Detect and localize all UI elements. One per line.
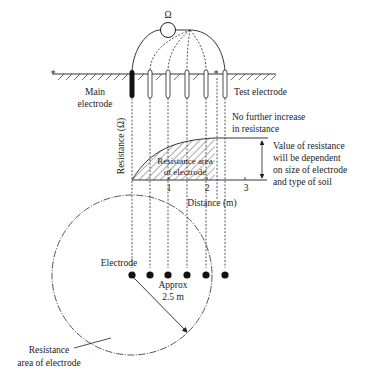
value-note: and type of soil	[273, 177, 332, 187]
ohmmeter: Ω	[161, 10, 176, 38]
asterisk-icon: *	[214, 69, 219, 79]
ohm-symbol: Ω	[164, 10, 171, 20]
probe-electrode	[185, 70, 189, 98]
probe-electrode	[148, 70, 152, 98]
x-axis-label: Distance (m)	[187, 198, 236, 209]
main-electrode-label: Main	[85, 87, 105, 97]
electrode-dot	[146, 271, 153, 278]
earth-resistance-diagram: Ω * *	[0, 0, 368, 380]
plan-area-label: area of electrode	[17, 358, 80, 368]
test-electrode-label: Test electrode	[234, 87, 287, 97]
y-axis-label: Resistance (Ω)	[116, 118, 127, 174]
electrode-dot	[183, 271, 190, 278]
radius-label: 2.5 m	[162, 292, 184, 302]
x-tick-1: 1	[167, 183, 172, 193]
radius-label: Approx	[158, 280, 187, 290]
probe-leads	[150, 30, 206, 70]
resistance-area-label: Resistance area	[157, 156, 213, 166]
value-note: on size of electrode	[273, 165, 347, 175]
plan-electrodes	[128, 271, 228, 278]
electrode-dot	[221, 271, 228, 278]
value-note: will be dependent	[273, 153, 341, 163]
test-electrode	[223, 70, 227, 98]
main-electrode-label: electrode	[78, 99, 113, 109]
electrode-dot	[164, 271, 171, 278]
lead-wire	[132, 30, 225, 72]
resistance-area-label: of electrode	[164, 167, 207, 177]
probe-electrode	[204, 70, 208, 98]
value-note: Value of resistance	[273, 141, 345, 151]
ground-hatch-icon	[52, 74, 276, 80]
x-tick-3: 3	[244, 183, 249, 193]
plan-area-label: Resistance	[29, 345, 70, 355]
electrode-label: Electrode	[101, 258, 137, 268]
electrode-dot	[202, 271, 209, 278]
no-increase-label: in resistance	[232, 124, 279, 134]
no-increase-label: No further increase	[232, 112, 305, 122]
main-electrode	[130, 70, 135, 98]
x-tick-2: 2	[205, 183, 210, 193]
probe-electrode	[166, 70, 170, 98]
asterisk-icon: *	[51, 69, 56, 79]
electrode-dot	[128, 271, 135, 278]
leader-line	[74, 338, 111, 348]
ohmmeter-circle-icon	[161, 23, 176, 38]
